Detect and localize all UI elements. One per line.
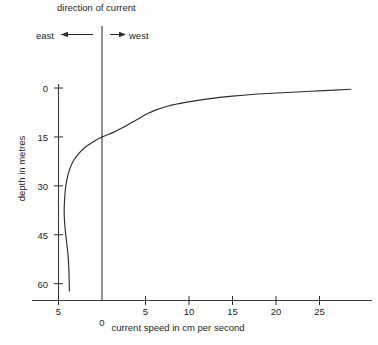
plot-area [0,0,378,345]
west-arrow-head-icon [119,32,126,37]
direction-arrows [61,32,126,37]
east-arrow-head-icon [61,32,68,37]
current-depth-chart: direction of current east west depth in … [0,0,378,345]
current-speed-curve [64,89,351,291]
